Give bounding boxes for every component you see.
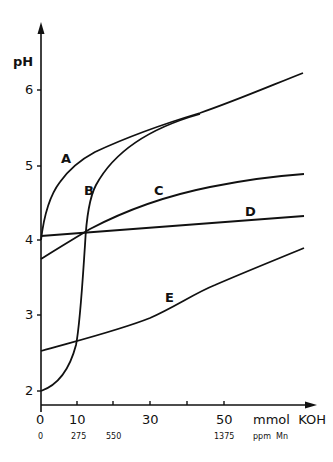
y-axis-title: pH [13, 55, 33, 68]
x-axis-unit: mmol KOH [253, 413, 326, 426]
curve-label-a: A [61, 152, 71, 165]
y-tick-label: 5 [25, 159, 33, 172]
x-tick-label: 0 [36, 413, 44, 426]
chart-canvas [0, 0, 333, 462]
curve-c [41, 174, 304, 259]
x-axis-unit-secondary: ppm Mn [253, 433, 288, 441]
curve-d [41, 216, 304, 236]
y-tick-label: 2 [25, 384, 33, 397]
curve-label-e: E [165, 291, 174, 304]
y-axis-arrow-icon [38, 22, 45, 34]
curve-label-b: B [84, 184, 94, 197]
curve-label-d: D [245, 205, 256, 218]
curve-a [41, 73, 303, 240]
y-tick-label: 3 [25, 308, 33, 321]
x-tick-label-secondary: 275 [71, 433, 86, 441]
y-tick-label: 6 [25, 83, 33, 96]
curve-label-c: C [154, 184, 164, 197]
x-axis-arrow-icon [305, 402, 317, 409]
x-tick-label: 10 [69, 413, 86, 426]
y-tick-label: 4 [25, 233, 33, 246]
x-tick-label-secondary: 0 [38, 433, 43, 441]
x-tick-label: 50 [216, 413, 233, 426]
x-tick-label-secondary: 1375 [214, 433, 234, 441]
x-tick-label-secondary: 550 [106, 433, 121, 441]
x-tick-label: 30 [142, 413, 159, 426]
